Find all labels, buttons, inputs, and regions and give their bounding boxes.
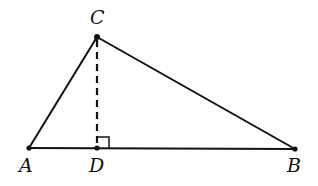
triangle-diagram: C A D B [0, 0, 318, 186]
vertex-b [292, 146, 297, 151]
label-a: A [17, 154, 33, 176]
vertex-c [94, 34, 100, 40]
vertex-a [26, 145, 31, 150]
segment-ab [29, 148, 295, 149]
label-d: D [88, 154, 104, 176]
label-c: C [90, 6, 105, 28]
segment-ac [29, 37, 97, 148]
segment-bc [97, 37, 295, 149]
label-b: B [286, 154, 301, 176]
vertex-d [94, 145, 99, 150]
